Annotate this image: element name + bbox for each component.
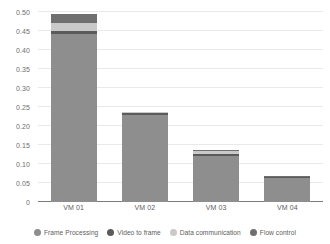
y-axis-tick-label: 0.10 bbox=[16, 161, 30, 168]
bar-stack bbox=[122, 112, 168, 202]
bar-segment[interactable] bbox=[51, 14, 97, 23]
y-axis-tick-label: 0.40 bbox=[16, 47, 30, 54]
y-axis-tick-label: 0.05 bbox=[16, 180, 30, 187]
bar-segment[interactable] bbox=[51, 23, 97, 31]
legend-swatch-circle-icon bbox=[250, 229, 257, 236]
x-axis-tick-label: VM 02 bbox=[135, 204, 156, 211]
legend-item[interactable]: Data communication bbox=[170, 229, 241, 236]
legend-label: Frame Processing bbox=[44, 229, 98, 236]
bar-group[interactable] bbox=[51, 12, 97, 202]
bar-segment[interactable] bbox=[264, 178, 310, 202]
y-axis-tick-label: 0 bbox=[26, 199, 30, 206]
bar-stack bbox=[264, 176, 310, 202]
y-axis-tick-label: 0.45 bbox=[16, 28, 30, 35]
y-axis-tick-label: 0.25 bbox=[16, 104, 30, 111]
chart-legend: Frame ProcessingVideo to frameData commu… bbox=[0, 224, 330, 240]
y-axis-tick-label: 0.30 bbox=[16, 85, 30, 92]
x-axis-tick-label: VM 01 bbox=[63, 204, 84, 211]
x-axis: VM 01VM 02VM 03VM 04 bbox=[38, 204, 323, 218]
y-axis-tick-label: 0.50 bbox=[16, 9, 30, 16]
legend-label: Data communication bbox=[180, 229, 241, 236]
bar-segment[interactable] bbox=[193, 156, 239, 202]
y-axis-tick-label: 0.20 bbox=[16, 123, 30, 130]
plot-area bbox=[38, 12, 323, 202]
legend-swatch-circle-icon bbox=[107, 229, 114, 236]
bar-group[interactable] bbox=[193, 12, 239, 202]
bar-stack bbox=[51, 14, 97, 202]
bars-layer bbox=[38, 12, 323, 202]
legend-item[interactable]: Video to frame bbox=[107, 229, 160, 236]
y-axis-tick-label: 0.35 bbox=[16, 66, 30, 73]
legend-swatch-circle-icon bbox=[34, 229, 41, 236]
bar-group[interactable] bbox=[122, 12, 168, 202]
stacked-bar-chart: 00.050.100.150.200.250.300.350.400.450.5… bbox=[0, 0, 330, 244]
y-axis: 00.050.100.150.200.250.300.350.400.450.5… bbox=[0, 12, 34, 202]
x-axis-tick-label: VM 04 bbox=[277, 204, 298, 211]
y-axis-tick-label: 0.15 bbox=[16, 142, 30, 149]
legend-label: Video to frame bbox=[117, 229, 160, 236]
legend-swatch-circle-icon bbox=[170, 229, 177, 236]
legend-item[interactable]: Frame Processing bbox=[34, 229, 98, 236]
bar-segment[interactable] bbox=[51, 34, 97, 202]
x-axis-tick-label: VM 03 bbox=[206, 204, 227, 211]
legend-label: Flow control bbox=[260, 229, 296, 236]
bar-stack bbox=[193, 150, 239, 202]
bar-segment[interactable] bbox=[122, 115, 168, 202]
legend-item[interactable]: Flow control bbox=[250, 229, 296, 236]
bar-group[interactable] bbox=[264, 12, 310, 202]
